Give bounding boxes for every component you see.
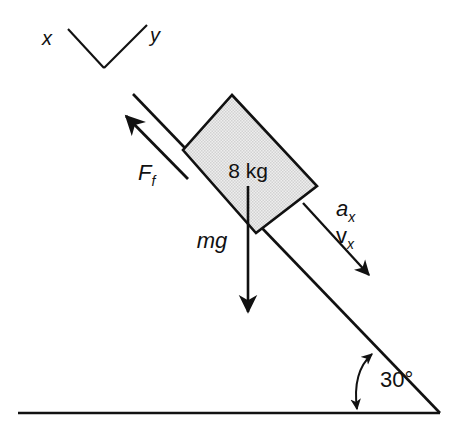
axis-x-label: x <box>41 27 53 49</box>
physics-diagram: x y 8 kg Ff mg ax <box>0 0 464 429</box>
weight-label: mg <box>197 228 228 253</box>
angle-arc <box>356 354 372 409</box>
kinematics-vector: ax vx <box>303 196 369 275</box>
velocity-label-subscript: x <box>346 236 355 252</box>
block-on-incline: 8 kg <box>183 95 317 233</box>
incline-angle-indicator: 30° <box>356 354 413 409</box>
acceleration-label-group: ax <box>336 196 356 225</box>
friction-label-subscript: f <box>151 173 157 189</box>
acceleration-label-subscript: x <box>347 209 356 225</box>
velocity-label-main: v <box>336 223 347 248</box>
angle-value-label: 30° <box>380 367 413 392</box>
axis-x-line <box>68 29 104 68</box>
axis-y-label: y <box>148 24 161 46</box>
incline-surface-line <box>133 94 440 413</box>
friction-arrow-line <box>126 116 188 179</box>
coordinate-axes: x y <box>41 24 161 68</box>
velocity-label-group: vx <box>336 223 355 252</box>
diagram-canvas: x y 8 kg Ff mg ax <box>0 0 464 429</box>
axis-y-line <box>104 25 147 68</box>
acceleration-label-main: a <box>336 196 348 221</box>
block-mass-label: 8 kg <box>228 159 268 182</box>
friction-force-vector: Ff <box>126 116 188 189</box>
friction-label-group: Ff <box>138 160 157 189</box>
